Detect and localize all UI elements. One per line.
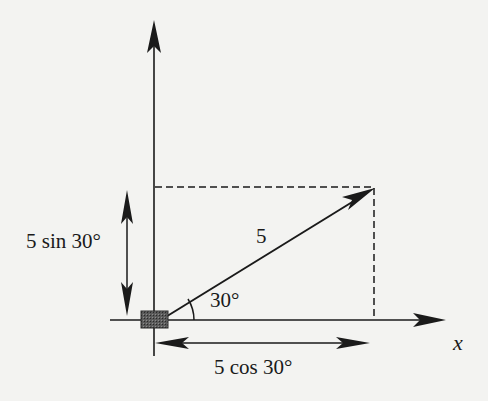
- y-axis: [147, 20, 161, 356]
- origin-block: [141, 311, 168, 328]
- vertical-component-arrow: [121, 190, 133, 316]
- angle-label: 30°: [210, 290, 239, 311]
- horizontal-component-arrow: [155, 337, 370, 349]
- x-axis-label: x: [453, 332, 463, 354]
- vector-diagram: 5 sin 30° 5 30° 5 cos 30° x: [0, 0, 488, 401]
- magnitude-label: 5: [256, 226, 267, 247]
- vertical-component-label: 5 sin 30°: [26, 231, 101, 252]
- horizontal-component-label: 5 cos 30°: [214, 357, 292, 378]
- vector-arrow: [164, 188, 375, 318]
- vector-arrowhead-icon: [342, 188, 375, 210]
- diagram-graphic: [0, 0, 488, 401]
